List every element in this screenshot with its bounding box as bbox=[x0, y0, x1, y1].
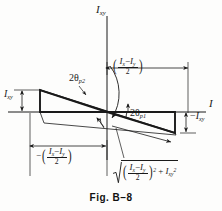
radius-label-leader bbox=[116, 128, 124, 158]
label-top-dimension: (Ix−Iy2) bbox=[112, 56, 143, 77]
angle-arc-lower-left bbox=[97, 118, 104, 128]
figure-drawing bbox=[0, 0, 222, 211]
axis-label-horizontal: I bbox=[209, 98, 213, 109]
label-ixy-positive: Ixy bbox=[4, 89, 13, 100]
label-radius-expression: (Ix−Iy2)2 + Ixy2 bbox=[113, 160, 178, 183]
left-ixy-dimension bbox=[14, 90, 41, 111]
angle-arc-2theta-p1 bbox=[126, 104, 128, 118]
figure-container: Ixy I Ixy −Ixy 2θp2 2θp1 (Ix−Iy2) −(Ix−I… bbox=[0, 0, 222, 211]
label-angle-2theta-p1: 2θp1 bbox=[130, 108, 146, 119]
radical-sign-icon bbox=[113, 161, 122, 184]
axis-label-vertical: Ixy bbox=[96, 4, 106, 17]
angle-leader-2theta-p2 bbox=[79, 86, 86, 95]
figure-caption: Fig. B–8 bbox=[0, 192, 222, 203]
radius-dimension-parallelogram bbox=[40, 112, 176, 135]
label-angle-2theta-p2: 2θp2 bbox=[69, 73, 85, 84]
label-bottom-dimension: −(Ix−Iy2) bbox=[36, 146, 72, 167]
label-ixy-negative: −Ixy bbox=[190, 111, 204, 122]
